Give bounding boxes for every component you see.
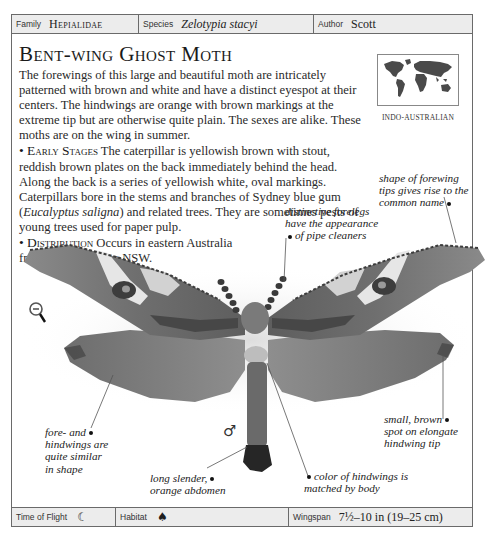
tree-icon: ♠ [157,510,168,524]
annotation-abdomen: long slender, orange abdomen [150,472,226,496]
habitat-label: Habitat [120,512,147,522]
footer-bar: Time of Flight ☾ Habitat ♠ Wingspan 7½–1… [11,507,473,527]
time-of-flight-cell: Time of Flight ☾ [12,508,116,526]
wingspan-cell: Wingspan 7½–10 in (19–25 cm) [289,508,472,526]
annotation-forewing-tips: shape of forewing tips gives rise to the… [379,172,469,209]
annotation-hindwing-spot: small, brown spot on elongate hindwing t… [384,413,458,450]
male-symbol-icon: ♂ [223,422,236,440]
wingspan-value: 7½–10 in (19–25 cm) [339,510,443,525]
wingspan-label: Wingspan [293,512,331,522]
moon-icon: ☾ [77,510,88,524]
zoom-out-icon[interactable] [28,301,50,325]
annotation-forelegs: distinctive forelegs have the appearance… [285,205,378,242]
time-of-flight-label: Time of Flight [16,512,67,522]
annotation-wings-similar: fore- and hindwings are quite similar in… [45,426,108,475]
habitat-cell: Habitat ♠ [116,508,289,526]
annotation-body-color: color of hindwings is matched by body [304,470,408,494]
